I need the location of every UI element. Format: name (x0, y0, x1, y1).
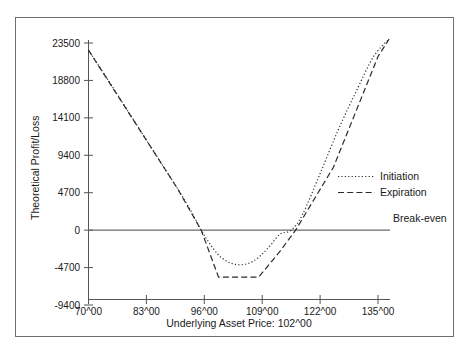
legend-label-break-even: Break-even (393, 212, 447, 224)
x-axis-tick-labels: 70^0083^0096^00109^00122^00135^00 (75, 306, 395, 317)
x-tick-label: 135^00 (362, 306, 395, 317)
initiation-series-line (89, 39, 390, 265)
x-tick-label: 83^00 (133, 306, 160, 317)
x-tick-label: 109^00 (246, 306, 279, 317)
y-tick-label: 9400 (58, 150, 81, 161)
chart-legend: Initiation Expiration Break-even (338, 170, 447, 224)
y-tick-label: -4700 (54, 262, 80, 273)
y-tick-label: 14100 (52, 112, 80, 123)
legend-label-initiation: Initiation (380, 170, 419, 182)
y-tick-label: 4700 (58, 187, 81, 198)
y-tick-label: 23500 (52, 38, 80, 49)
y-tick-label: 18800 (52, 75, 80, 86)
y-tick-label: 0 (74, 225, 80, 236)
expiration-series-line (89, 39, 390, 277)
x-tick-label: 70^00 (75, 306, 102, 317)
x-tick-label: 96^00 (191, 306, 218, 317)
x-axis-title: Underlying Asset Price: 102^00 (166, 317, 312, 329)
y-axis-tick-labels: 235001880014100940047000-4700-9400 (52, 38, 80, 311)
x-tick-label: 122^00 (304, 306, 337, 317)
profit-loss-chart: 235001880014100940047000-4700-9400 70^00… (0, 0, 469, 357)
legend-label-expiration: Expiration (380, 186, 427, 198)
y-axis-title: Theoretical Profit/Loss (29, 116, 41, 220)
